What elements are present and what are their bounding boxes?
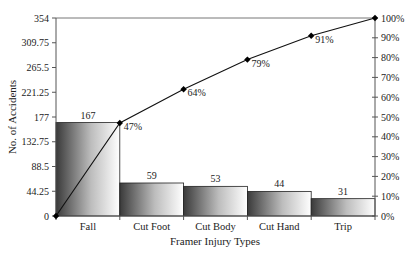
right-tick-label: 20% — [381, 171, 399, 182]
left-tick-label: 0 — [44, 211, 49, 222]
cumulative-percent-label: 47% — [124, 121, 142, 132]
x-axis-title: Framer Injury Types — [170, 235, 260, 247]
left-y-axis: 044.2588.5132.75177221.25265.5309.75354 — [22, 13, 57, 222]
right-tick-label: 90% — [381, 32, 399, 43]
right-tick-label: 100% — [381, 13, 404, 24]
category-label: Cut Foot — [133, 221, 170, 232]
left-tick-label: 309.75 — [22, 37, 50, 48]
left-tick-label: 265.5 — [27, 62, 50, 73]
diamond-marker-icon — [180, 86, 186, 92]
category-label: Cut Body — [195, 221, 236, 232]
cumulative-percent-label: 64% — [188, 87, 206, 98]
y-axis-title: No. of Accidents — [6, 80, 18, 154]
right-tick-label: 0% — [381, 211, 394, 222]
left-tick-label: 44.25 — [27, 186, 50, 197]
x-axis-categories: FallCut FootCut BodyCut HandTrip — [80, 221, 352, 232]
left-tick-label: 132.75 — [22, 136, 50, 147]
left-tick-label: 177 — [34, 112, 49, 123]
category-label: Cut Hand — [259, 221, 300, 232]
bar-series: 16759534431 — [56, 110, 375, 216]
diamond-marker-icon — [244, 56, 250, 62]
pareto-chart: 16759534431 044.2588.5132.75177221.25265… — [0, 0, 409, 259]
diamond-marker-icon — [308, 33, 314, 39]
right-tick-label: 10% — [381, 191, 399, 202]
left-tick-label: 221.25 — [22, 87, 50, 98]
bar-value-label: 44 — [274, 178, 284, 189]
category-label: Trip — [334, 221, 352, 232]
right-tick-label: 70% — [381, 72, 399, 83]
left-tick-label: 354 — [34, 13, 49, 24]
bar — [120, 183, 184, 216]
right-tick-label: 80% — [381, 52, 399, 63]
cumulative-percent-label: 91% — [315, 34, 333, 45]
right-y-axis: 0%10%20%30%40%50%60%70%80%90%100% — [372, 13, 404, 222]
bar-value-label: 31 — [338, 186, 348, 197]
diamond-marker-icon — [372, 15, 378, 21]
bar-value-label: 53 — [211, 173, 221, 184]
bar — [184, 186, 248, 216]
category-label: Fall — [80, 221, 96, 232]
right-tick-label: 50% — [381, 112, 399, 123]
bar-value-label: 167 — [80, 110, 95, 121]
right-tick-label: 40% — [381, 131, 399, 142]
bar-value-label: 59 — [147, 170, 157, 181]
right-tick-label: 30% — [381, 151, 399, 162]
bar — [247, 191, 311, 216]
right-tick-label: 60% — [381, 92, 399, 103]
bar — [311, 199, 375, 216]
left-tick-label: 88.5 — [32, 161, 50, 172]
cumulative-percent-label: 79% — [251, 58, 269, 69]
